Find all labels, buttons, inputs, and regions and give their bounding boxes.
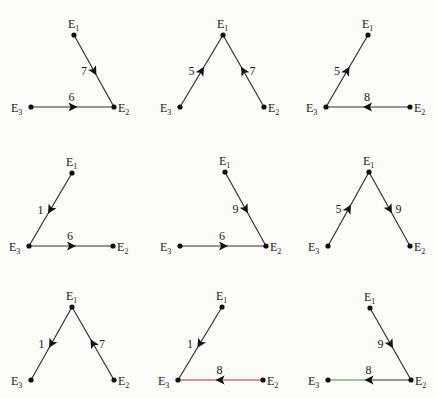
node-label-E1: E1 [66,155,77,171]
node-label-E2: E2 [118,374,129,390]
graph-diagram-grid: 76E1E2E357E1E2E358E1E2E316E1E2E396E1E2E3… [0,0,436,398]
graph-panel-5: 96E1E2E3 [160,154,281,256]
node-label-E3: E3 [308,374,319,390]
graph-panel-9: 98E1E2E3 [308,290,426,390]
node-label-E1: E1 [362,17,373,33]
edge-E1-E3: 1 [29,173,72,246]
arrow-icon [384,203,396,215]
node-E1 [222,169,227,174]
node-label-E2: E2 [415,374,426,390]
edge-E1-E2: 7 [74,35,114,107]
edge-E3-E2: 6 [29,229,113,251]
edge-E2-E3: 8 [178,363,263,385]
edge-weight: 1 [187,337,193,351]
edge-weight: 6 [67,229,73,243]
edge-weight: 8 [366,363,372,377]
edge-weight: 5 [189,64,195,78]
node-E2 [408,377,413,382]
arrow-icon [87,337,99,349]
node-label-E3: E3 [308,240,319,256]
node-E3 [177,243,182,248]
arrow-icon [343,202,355,214]
node-E3 [177,104,182,109]
edge-weight: 9 [378,337,384,351]
arrow-icon [196,64,208,76]
arrow-icon [45,338,57,350]
node-label-E1: E1 [363,154,374,170]
node-E2 [263,243,268,248]
node-E2 [110,243,115,248]
node-E2 [261,104,266,109]
node-E2 [260,377,265,382]
edge-E2-E3: 8 [328,363,411,385]
node-E2 [111,104,116,109]
graph-panel-4: 16E1E2E3 [9,155,128,256]
edge-E1-E2: 9 [225,172,266,246]
node-label-E1: E1 [216,289,227,305]
node-label-E2: E2 [270,240,281,256]
edge-E2-E3: 8 [326,90,410,112]
edge-weight: 9 [396,202,402,216]
node-label-E1: E1 [68,17,79,33]
node-E1 [219,304,224,309]
edge-weight: 8 [217,363,223,377]
arrow-icon [44,204,56,216]
node-E1 [365,32,370,37]
node-E1 [220,32,225,37]
edge-weight: 8 [364,90,370,104]
arrow-icon [88,65,100,77]
node-E3 [28,377,33,382]
node-label-E3: E3 [306,101,317,117]
node-label-E3: E3 [9,240,20,256]
node-label-E2: E2 [117,240,128,256]
node-label-E1: E1 [364,290,375,306]
node-label-E3: E3 [160,101,171,117]
graph-panel-7: 17E1E2E3 [11,289,129,390]
arrow-icon [385,338,397,350]
node-E3 [325,243,330,248]
node-label-E1: E1 [217,17,228,33]
node-E1 [69,304,74,309]
arrow-icon [237,64,249,76]
graph-panel-8: 18E1E2E3 [158,289,278,390]
edge-weight: 5 [336,202,342,216]
node-E2 [111,377,116,382]
node-E3 [323,104,328,109]
node-E1 [366,169,371,174]
arrow-icon [341,64,353,76]
edge-E3-E2: 6 [180,229,266,251]
node-label-E2: E2 [267,374,278,390]
edge-weight: 7 [99,337,105,351]
node-E1 [69,170,74,175]
edge-weight: 5 [334,64,340,78]
node-label-E2: E2 [268,101,279,117]
node-label-E3: E3 [158,374,169,390]
node-label-E3: E3 [160,240,171,256]
edge-E2-E1: 7 [223,35,264,107]
node-E3 [28,104,33,109]
edge-E1-E2: 9 [370,308,411,380]
graph-panel-3: 58E1E2E3 [306,17,425,117]
graph-panel-2: 57E1E2E3 [160,17,279,117]
edge-weight: 9 [233,202,239,216]
edge-E3-E1: 5 [180,35,223,107]
node-label-E1: E1 [219,154,230,170]
edge-E1-E2: 9 [369,172,410,246]
node-E1 [367,305,372,310]
edge-E1-E3: 1 [178,307,222,380]
edge-E2-E1: 7 [72,307,114,380]
node-E3 [26,243,31,248]
arrow-icon [240,203,252,215]
graph-panel-6: 59E1E2E3 [308,154,425,256]
node-label-E2: E2 [414,240,425,256]
edge-E3-E2: 6 [31,90,114,112]
edge-weight: 7 [81,64,87,78]
node-E3 [175,377,180,382]
edge-weight: 1 [38,203,44,217]
edge-E1-E3: 1 [31,307,72,380]
node-E2 [407,243,412,248]
node-E1 [71,32,76,37]
node-E3 [325,377,330,382]
node-label-E2: E2 [118,101,129,117]
graph-panel-1: 76E1E2E3 [11,17,129,117]
